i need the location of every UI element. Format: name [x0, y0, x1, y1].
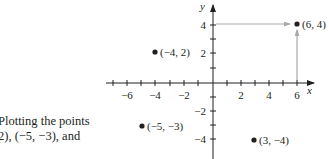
point-6-4: (6, 4)	[294, 18, 326, 31]
x-tick-label: 6	[294, 89, 300, 101]
x-tick-label: −6	[121, 89, 133, 101]
y-tick-label: −2	[194, 105, 206, 117]
x-axis-label: x	[306, 84, 312, 96]
point-label: (−4, 2)	[160, 46, 190, 59]
caption-line-1: Plotting the points	[0, 114, 90, 129]
point-neg5-neg3: (−5, −3)	[139, 120, 183, 133]
figure-caption: Plotting the points 2), (−5, −3), and	[0, 114, 90, 144]
point-label: (−5, −3)	[147, 120, 184, 133]
y-tick-label: 2	[201, 47, 207, 59]
point-label: (3, −4)	[259, 134, 289, 147]
point-3-neg4: (3, −4)	[251, 134, 289, 147]
y-axis-label: y	[199, 0, 205, 12]
point-dot	[139, 123, 144, 128]
y-tick-label: −4	[194, 133, 206, 145]
x-tick-label: 2	[238, 89, 244, 101]
point-label: (6, 4)	[302, 18, 326, 31]
caption-line-2: 2), (−5, −3), and	[0, 129, 90, 144]
point-dot	[152, 49, 157, 54]
x-tick-label: −4	[149, 89, 161, 101]
point-dot	[251, 137, 256, 142]
point-dot	[294, 21, 299, 26]
y-tick-label: 4	[201, 19, 207, 31]
x-tick-label: 4	[266, 89, 272, 101]
x-tick-label: −2	[178, 89, 190, 101]
point-neg4-2: (−4, 2)	[152, 46, 190, 59]
